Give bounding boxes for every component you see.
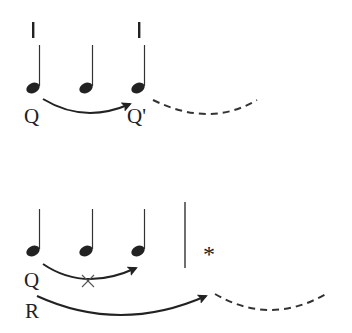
quarter-note-1 [25,45,42,95]
asterisk: * [203,241,215,267]
arrow-r-beyond-barline [37,296,206,315]
beat-mark-1 [32,22,34,38]
cross-mark-icon [82,275,94,287]
label-q-bottom: Q [24,268,39,292]
quarter-note-2 [78,45,95,95]
quarter-note-3 [130,45,147,95]
beat-mark-2 [138,22,140,38]
label-q-prime: Q' [127,104,146,128]
diagram-canvas: Q Q' * Q R [0,0,352,333]
quarter-note-4 [25,209,42,258]
top-system: Q Q' [24,22,257,128]
dashed-continuation-top [153,100,257,114]
label-q-top: Q [24,104,39,128]
bottom-system: * Q R [24,202,326,323]
quarter-note-6 [130,209,147,258]
arrow-q-blocked [43,264,136,279]
arrow-q-to-q-prime [43,99,130,113]
quarter-note-5 [78,209,95,258]
label-r: R [25,299,39,323]
dashed-continuation-bottom [215,294,326,310]
